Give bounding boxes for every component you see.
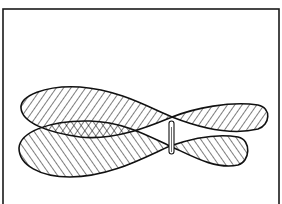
upper-lobe-hatch-fill (21, 87, 268, 138)
radiation-pattern-diagram (0, 0, 282, 204)
antenna-rod (169, 121, 174, 154)
upper-lobe-pair (21, 87, 268, 138)
